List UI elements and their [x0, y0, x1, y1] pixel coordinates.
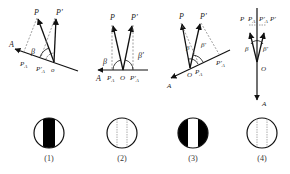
angle-arc-beta: [113, 60, 121, 70]
label-p-prime: P': [269, 15, 276, 23]
label-beta-prime: β': [137, 51, 144, 60]
label-o: O: [187, 71, 192, 79]
label-beta: β: [185, 44, 190, 52]
vector-diagram-4: P PA P'A P' β β' O A: [239, 8, 276, 108]
view-circle-2: (2): [107, 118, 137, 163]
label-p: P: [178, 12, 184, 21]
label-a: A: [261, 100, 267, 108]
label-pa: PA: [106, 74, 115, 83]
vector-diagram-3: P P' β β' O PA P'A A: [166, 12, 230, 90]
label-p-prime: P': [55, 8, 63, 17]
label-pa: PA: [247, 15, 256, 24]
label-pa: PA: [194, 68, 203, 77]
label-beta-prime: β': [262, 45, 268, 53]
angle-arc-beta-prime: [125, 60, 133, 70]
label-o: O: [261, 65, 266, 73]
dark-band: [43, 117, 55, 149]
label-o: O: [120, 74, 125, 82]
label-p-prime: P': [130, 13, 138, 22]
angle-arc-beta-prime: [193, 55, 203, 62]
label-pa-prime: P'A: [258, 15, 269, 24]
label-a: A: [95, 74, 101, 83]
label-p: P: [33, 8, 39, 17]
label-pa-prime: P'A: [129, 74, 140, 83]
vector-diagram-1: P P' A β PA P'A o: [8, 8, 78, 74]
vector-p-prime: [190, 24, 200, 68]
label-o: o: [51, 66, 55, 74]
vector-p: [113, 26, 123, 70]
label-pa-prime: P'A: [35, 65, 46, 74]
vector-p-prime: [54, 19, 56, 62]
label-pa-prime: P'A: [215, 59, 226, 68]
projection-dashed: [201, 23, 219, 54]
view-circle-4: (4): [247, 118, 277, 163]
label-p-prime: P': [199, 12, 207, 21]
label-pa: PA: [19, 60, 28, 69]
vector-diagram-2: P P' β β' A PA O P'A: [95, 13, 148, 83]
label-p: P: [109, 13, 115, 22]
caption-3: (3): [188, 154, 198, 163]
label-beta: β: [244, 45, 249, 53]
caption-2: (2): [117, 154, 127, 163]
label-a: A: [166, 82, 172, 90]
caption-4: (4): [257, 154, 267, 163]
label-beta-prime: β': [200, 41, 206, 49]
label-beta: β: [102, 57, 107, 66]
label-beta: β: [30, 47, 35, 56]
view-circle-1: (1): [34, 117, 64, 163]
vector-p: [250, 33, 257, 62]
circle-outline: [107, 118, 137, 148]
view-circle-3: (3): [178, 118, 208, 163]
polarization-diagram: P P' A β PA P'A o P P' β β' A PA O P'A P…: [0, 0, 290, 174]
label-a: A: [8, 40, 14, 49]
projection-dashed: [41, 18, 55, 57]
caption-1: (1): [44, 154, 54, 163]
circle-outline: [247, 118, 277, 148]
label-p: P: [239, 15, 245, 23]
